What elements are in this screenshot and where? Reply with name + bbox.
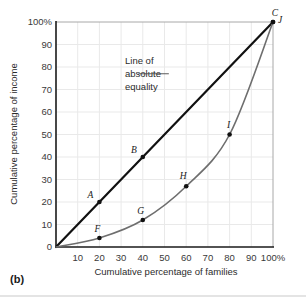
x-tick-label: 80 [224, 252, 235, 263]
point-label-b: B [131, 145, 137, 155]
x-tick-label: 50 [159, 252, 170, 263]
data-point-h [184, 184, 189, 189]
annotation-line-1: Line of [125, 55, 154, 66]
x-tick-label: 30 [116, 252, 127, 263]
y-tick-label: 60 [41, 106, 52, 117]
point-label-h: H [179, 171, 188, 181]
lorenz-curve-figure: 0102030405060708090100% 1020304050607080… [0, 0, 306, 303]
y-tick-label: 30 [41, 174, 52, 185]
lorenz-curve-chart: 0102030405060708090100% 1020304050607080… [0, 0, 306, 303]
point-label-a: A [86, 190, 93, 200]
x-tick-label: 100% [261, 252, 286, 263]
y-tick-label: 70 [41, 84, 52, 95]
y-tick-label: 20 [41, 196, 52, 207]
x-tick-label: 60 [181, 252, 192, 263]
x-tick-label: 10 [72, 252, 83, 263]
data-point-i [227, 132, 232, 137]
point-label-g: G [137, 206, 144, 216]
panel-label: (b) [10, 273, 24, 285]
y-tick-label: 10 [41, 219, 52, 230]
point-label-f: F [93, 224, 100, 234]
y-tick-label: 40 [41, 151, 52, 162]
x-tick-label: 20 [94, 252, 105, 263]
x-tick-label: 90 [246, 252, 257, 263]
y-tick-label: 100% [28, 16, 53, 27]
y-tick-label: 50 [41, 129, 52, 140]
x-tick-label: 70 [203, 252, 214, 263]
x-axis-title: Cumulative percentage of families [94, 266, 237, 277]
data-point-a [97, 200, 102, 205]
y-axis-title: Cumulative percentage of income [8, 63, 19, 205]
data-point-f [97, 236, 102, 241]
y-tick-label: 80 [41, 61, 52, 72]
x-tick-label: 40 [138, 252, 149, 263]
y-tick-label: 90 [41, 39, 52, 50]
y-tick-label: 0 [47, 241, 52, 252]
data-point-b [141, 155, 146, 160]
annotation-line-3: equality [125, 81, 158, 92]
data-point-j [271, 20, 276, 25]
data-point-g [141, 218, 146, 223]
